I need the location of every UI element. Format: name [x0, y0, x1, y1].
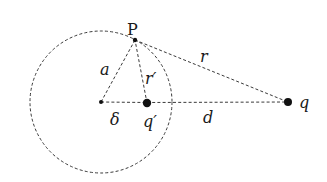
segment-d	[147, 102, 288, 103]
point-q	[284, 98, 292, 106]
segment-r	[135, 40, 288, 102]
label-a: a	[100, 60, 110, 79]
label-P: P	[127, 20, 138, 39]
label-delta: δ	[110, 110, 120, 129]
point-center	[99, 100, 103, 104]
label-q-prime: q′	[143, 112, 157, 131]
label-r-prime: r′	[145, 69, 157, 88]
label-r: r	[200, 47, 209, 66]
point-q-image	[143, 99, 151, 107]
segment-delta	[101, 102, 147, 103]
label-d: d	[203, 108, 213, 127]
image-charge-diagram: P a r′ r δ q′ d q	[0, 0, 327, 182]
label-q: q	[299, 93, 309, 112]
